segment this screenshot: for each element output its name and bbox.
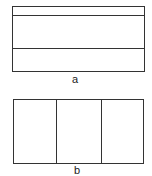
figure-a-divider-middle xyxy=(12,48,145,49)
figure-a-label: a xyxy=(65,74,85,85)
figure-b-rectangle xyxy=(13,99,144,164)
figure-b-divider-right xyxy=(101,99,102,164)
figure-b-divider-left xyxy=(56,99,57,164)
figure-a-divider-top xyxy=(12,15,145,16)
figure-b-label: b xyxy=(67,165,87,176)
